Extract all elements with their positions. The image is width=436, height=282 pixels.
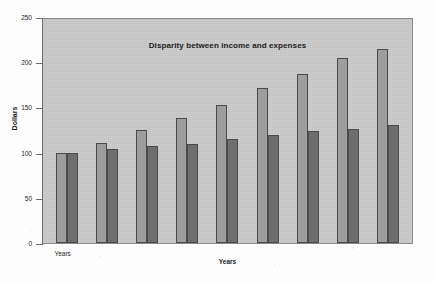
- bar-group: [297, 19, 319, 243]
- bar-group: [257, 19, 279, 243]
- bar-expenses: [268, 135, 279, 243]
- bar-income: [377, 49, 388, 243]
- y-axis-tick: [36, 199, 42, 200]
- bar-expenses: [187, 144, 198, 243]
- bar-group: [56, 19, 78, 243]
- y-axis-tick-label: 50: [0, 195, 32, 202]
- chart-screenshot: Disparity between income and expenses 05…: [0, 0, 436, 282]
- bar-income: [337, 58, 348, 243]
- bar-group: [96, 19, 118, 243]
- bar-income: [257, 88, 268, 243]
- y-axis-tick-label: 100: [0, 150, 32, 157]
- bar-income: [297, 74, 308, 243]
- x-axis-title: Years: [42, 258, 413, 265]
- bar-group: [136, 19, 158, 243]
- y-axis-tick: [36, 18, 42, 19]
- bar-income: [56, 153, 67, 243]
- bar-expenses: [107, 149, 118, 243]
- bar-series-container: [43, 19, 412, 243]
- x-axis-tick-label: Years: [43, 250, 83, 257]
- y-axis-tick: [36, 244, 42, 245]
- bar-expenses: [348, 129, 359, 243]
- bar-group: [337, 19, 359, 243]
- bar-income: [136, 130, 147, 243]
- bar-income: [176, 118, 187, 243]
- bar-expenses: [308, 131, 319, 243]
- bar-expenses: [147, 146, 158, 243]
- bar-expenses: [67, 153, 78, 243]
- bar-income: [216, 105, 227, 243]
- bar-expenses: [227, 139, 238, 243]
- bar-expenses: [388, 125, 399, 243]
- y-axis-title: Dollars: [11, 89, 18, 149]
- y-axis-tick-label: 250: [0, 14, 32, 21]
- bar-group: [216, 19, 238, 243]
- y-axis-tick-label: 200: [0, 59, 32, 66]
- y-axis-line: [42, 18, 43, 245]
- bar-income: [96, 143, 107, 243]
- y-axis-tick: [36, 108, 42, 109]
- bar-group: [176, 19, 198, 243]
- y-axis-tick: [36, 154, 42, 155]
- y-axis-tick: [36, 63, 42, 64]
- plot-area: Disparity between income and expenses: [42, 18, 413, 244]
- y-axis-tick-label: 0: [0, 240, 32, 247]
- bar-group: [377, 19, 399, 243]
